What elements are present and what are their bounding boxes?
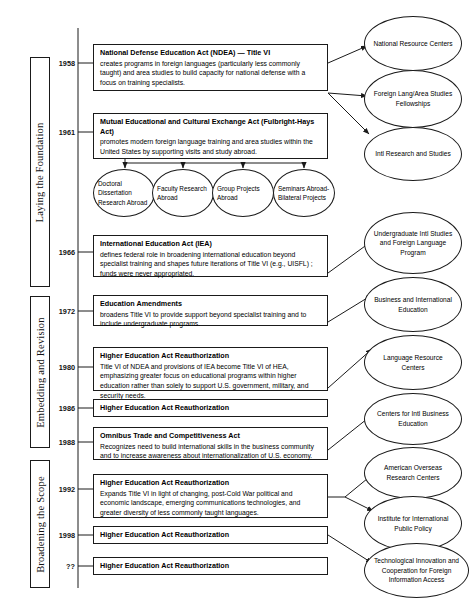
event-title: Mutual Educational and Cultural Exchange… (100, 117, 322, 136)
oval-label: Doctoral Dissertation Research Abroad (94, 179, 154, 206)
era-label: Laying the Foundation (35, 122, 46, 222)
year-label-1988: 1988 (50, 438, 75, 447)
event-description: Title VI of NDEA and provisions of IEA b… (100, 362, 322, 401)
year-label-1961: 1961 (50, 128, 75, 137)
year-label-1980: 1980 (50, 363, 75, 372)
event-title: Higher Education Act Reauthorization (100, 478, 322, 488)
event-description: Expands Title VI in light of changing, p… (100, 489, 322, 518)
event-title: National Defense Education Act (NDEA) — … (100, 48, 322, 58)
event-title: Higher Education Act Reauthorization (100, 561, 229, 571)
event-title: Higher Education Act Reauthorization (100, 530, 229, 540)
outcome-oval-business-and-international-education[interactable]: Business and International Education (364, 277, 462, 332)
year-label-1958: 1958 (50, 59, 75, 68)
outcome-oval-american-overseas-research-centers[interactable]: American Overseas Research Centers (364, 447, 462, 499)
oval-label: Institute for International Public Polic… (365, 514, 461, 533)
program-oval-seminars-abroad-bilateral-projects[interactable]: Seminars Abroad-Bilateral Projects (273, 169, 335, 217)
program-oval-faculty-research-abroad[interactable]: Faculty Research Abroad (152, 169, 214, 217)
oval-label: American Overseas Research Centers (365, 463, 461, 482)
event-box-omnibus-1988[interactable]: Omnibus Trade and Competitiveness Act Re… (93, 427, 328, 460)
oval-label: Intl Research and Studies (369, 149, 457, 159)
program-oval-doctoral-dissertation-research-abroad[interactable]: Doctoral Dissertation Research Abroad (93, 169, 155, 217)
oval-label: Seminars Abroad-Bilateral Projects (274, 184, 334, 202)
year-label-1986: 1986 (50, 404, 75, 413)
event-title: Education Amendments (100, 299, 322, 309)
year-label-unknown: ?? (50, 562, 75, 571)
oval-label: Undergraduate Intl Studies and Foreign L… (365, 229, 461, 258)
event-description: defines federal role in broadening inter… (100, 250, 322, 279)
oval-label: Foreign Lang/Area Studies Fellowships (365, 89, 461, 108)
timeline-diagram: Laying the Foundation Embedding and Revi… (0, 0, 471, 601)
event-box-education-amendments-1972[interactable]: Education Amendments broadens Title VI t… (93, 295, 328, 326)
outcome-oval-flas-fellowships[interactable]: Foreign Lang/Area Studies Fellowships (364, 70, 462, 128)
oval-label: Group Projects Abroad (213, 184, 273, 202)
era-label: Embedding and Revision (35, 317, 46, 428)
event-title: Higher Education Act Reauthorization (100, 351, 322, 361)
event-box-hea-unknown[interactable]: Higher Education Act Reauthorization (93, 557, 328, 575)
era-bracket-broadening-the-scope: Broadening the Scope (30, 460, 50, 588)
era-bracket-embedding-and-revision: Embedding and Revision (30, 296, 50, 448)
year-label-1992: 1992 (50, 485, 75, 494)
era-label: Broadening the Scope (35, 476, 46, 573)
outcome-oval-national-resource-centers[interactable]: National Resource Centers (364, 16, 462, 71)
oval-label: Language Resource Centers (365, 353, 461, 372)
event-box-ndea-1958[interactable]: National Defense Education Act (NDEA) — … (93, 44, 328, 91)
event-description: Recognizes need to build international s… (100, 442, 322, 461)
event-box-hea-1998[interactable]: Higher Education Act Reauthorization (93, 526, 328, 544)
event-description: creates programs in foreign languages (p… (100, 59, 322, 88)
oval-label: Technological Innovation and Cooperation… (365, 556, 468, 585)
outcome-oval-uisfl[interactable]: Undergraduate Intl Studies and Foreign L… (364, 212, 462, 274)
event-description: promotes modern foreign language trainin… (100, 137, 322, 156)
oval-label: Centers for Intl Business Education (365, 409, 461, 428)
event-box-fulbright-1961[interactable]: Mutual Educational and Cultural Exchange… (93, 113, 328, 159)
outcome-oval-ticfia[interactable]: Technological Innovation and Cooperation… (364, 543, 469, 598)
oval-label: National Resource Centers (367, 39, 458, 49)
year-label-1998: 1998 (50, 531, 75, 540)
outcome-oval-intl-research-and-studies[interactable]: Intl Research and Studies (364, 127, 462, 181)
event-box-hea-1992[interactable]: Higher Education Act Reauthorization Exp… (93, 474, 328, 518)
event-title: Higher Education Act Reauthorization (100, 403, 229, 413)
year-label-1972: 1972 (50, 307, 75, 316)
outcome-oval-language-resource-centers[interactable]: Language Resource Centers (364, 335, 462, 390)
oval-label: Faculty Research Abroad (153, 184, 213, 202)
event-description: broadens Title VI to provide support bey… (100, 310, 322, 329)
oval-label: Business and International Education (365, 295, 461, 314)
event-title: Omnibus Trade and Competitiveness Act (100, 431, 322, 441)
program-oval-group-projects-abroad[interactable]: Group Projects Abroad (212, 169, 274, 217)
outcome-oval-centers-for-intl-business-education[interactable]: Centers for Intl Business Education (364, 393, 462, 445)
event-box-hea-1986[interactable]: Higher Education Act Reauthorization (93, 399, 328, 417)
event-box-iea-1966[interactable]: International Education Act (IEA) define… (93, 235, 328, 277)
era-bracket-laying-the-foundation: Laying the Foundation (30, 57, 50, 287)
event-box-hea-1980[interactable]: Higher Education Act Reauthorization Tit… (93, 347, 328, 391)
event-title: International Education Act (IEA) (100, 239, 322, 249)
year-label-1966: 1966 (50, 248, 75, 257)
